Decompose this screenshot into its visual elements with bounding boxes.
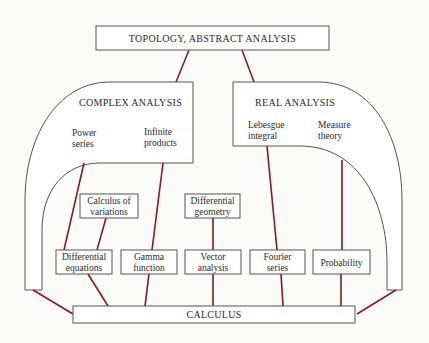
- link-diffeq-calculus: [88, 274, 108, 306]
- link-infinite-products-gamma: [152, 163, 163, 250]
- diffgeom-line2: geometry: [195, 207, 231, 217]
- link-calcvar-diffeq: [97, 218, 106, 250]
- calcvar-line2: variations: [90, 207, 128, 217]
- power-series-line1: Power: [72, 128, 97, 138]
- gamma-line2: function: [133, 263, 165, 273]
- vector-line2: analysis: [198, 263, 229, 273]
- real-analysis-label: REAL ANALYSIS: [255, 97, 335, 108]
- vector-line1: Vector: [201, 252, 227, 262]
- gamma-line1: Gamma: [134, 252, 165, 262]
- infinite-products-line2: products: [144, 138, 177, 148]
- link-fourier-calculus: [281, 274, 283, 306]
- complex-analysis-label: COMPLEX ANALYSIS: [79, 97, 182, 108]
- topology-label: TOPOLOGY, ABSTRACT ANALYSIS: [129, 33, 296, 44]
- link-topology-complex: [176, 50, 189, 82]
- power-series-line2: series: [72, 139, 94, 149]
- link-topology-real: [242, 50, 254, 82]
- diagram-canvas: TOPOLOGY, ABSTRACT ANALYSIS COMPLEX ANAL…: [0, 0, 429, 343]
- fourier-line1: Fourier: [264, 252, 293, 262]
- link-lebesgue-fourier: [267, 146, 277, 250]
- measure-line1: Measure: [318, 120, 351, 130]
- link-real-arm-calculus: [357, 290, 396, 314]
- infinite-products-line1: Infinite: [144, 127, 172, 137]
- diffeq-line1: Differential: [62, 252, 106, 262]
- fourier-line2: series: [267, 263, 289, 273]
- lebesgue-line1: Lebesgue: [248, 120, 284, 130]
- probability-label: Probability: [320, 258, 362, 268]
- link-gamma-calculus: [145, 274, 149, 306]
- link-complex-arm-calculus: [33, 290, 73, 314]
- calculus-label: CALCULUS: [186, 309, 241, 320]
- measure-line2: theory: [318, 131, 343, 141]
- calcvar-line1: Calculus of: [87, 196, 131, 206]
- diffeq-line2: equations: [66, 263, 103, 273]
- diffgeom-line1: Differential: [190, 196, 234, 206]
- lebesgue-line2: integral: [248, 131, 277, 141]
